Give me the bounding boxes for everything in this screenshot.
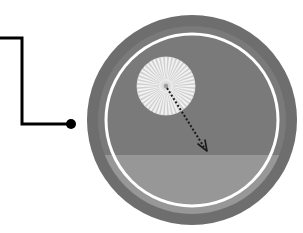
rosette-hub-center (164, 84, 168, 88)
figure-root (0, 0, 303, 233)
diagram-canvas (0, 0, 303, 233)
callout-endpoint-dot (66, 119, 76, 129)
